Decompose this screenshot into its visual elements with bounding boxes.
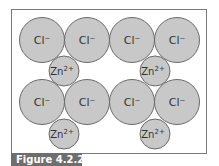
chloride-ion: Cl⁻ [110,80,155,125]
zinc-ion: Zn2+ [140,119,170,149]
ion-label: Cl⁻ [169,34,186,47]
ion-label: Cl⁻ [34,96,51,109]
ion-label: Cl⁻ [79,34,96,47]
ion-label: Cl⁻ [34,34,51,47]
ionic-lattice-diagram: Cl⁻Cl⁻Cl⁻Cl⁻Cl⁻Cl⁻Cl⁻Cl⁻Zn2+Zn2+Zn2+Zn2+ [0,0,219,166]
chloride-ion: Cl⁻ [20,18,65,63]
chloride-ion: Cl⁻ [65,80,110,125]
chloride-ion: Cl⁻ [155,18,200,63]
ion-label: Cl⁻ [169,96,186,109]
ion-charge: 2+ [63,65,73,73]
chloride-ion: Cl⁻ [20,80,65,125]
ion-charge: 2+ [154,128,164,136]
ion-charge: 2+ [63,128,73,136]
zinc-ion: Zn2+ [49,56,79,86]
ion-label: Cl⁻ [124,96,141,109]
ion-label: Cl⁻ [79,96,96,109]
ion-label: Cl⁻ [124,34,141,47]
chloride-ion: Cl⁻ [65,18,110,63]
zinc-ion: Zn2+ [49,119,79,149]
ion-charge: 2+ [154,65,164,73]
chloride-ion: Cl⁻ [155,80,200,125]
figure-caption: Figure 4.2.2 [16,153,84,166]
zinc-ion: Zn2+ [140,56,170,86]
chloride-ion: Cl⁻ [110,18,155,63]
